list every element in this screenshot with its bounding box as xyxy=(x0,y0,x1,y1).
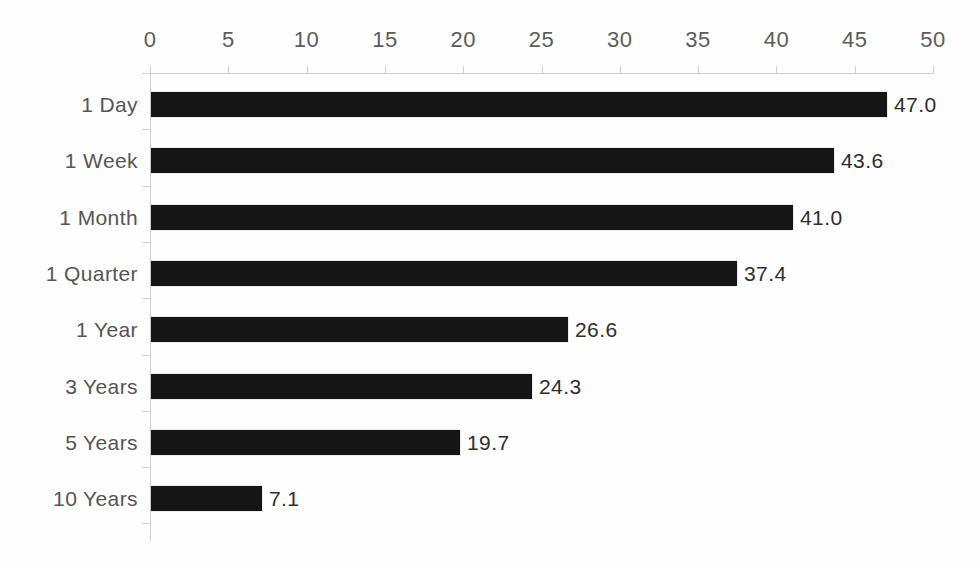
bar[interactable] xyxy=(151,92,887,117)
x-axis-tick-label: 20 xyxy=(450,27,475,53)
x-axis-tick xyxy=(463,66,464,74)
x-axis-tick xyxy=(933,66,934,74)
y-axis-tick xyxy=(142,523,150,524)
bar-row[interactable]: 1 Year26.6 xyxy=(0,317,980,342)
bar[interactable] xyxy=(151,374,532,399)
category-label: 1 Year xyxy=(0,317,138,342)
x-axis-tick-label: 5 xyxy=(222,27,235,53)
category-label: 5 Years xyxy=(0,430,138,455)
bar-value-label: 19.7 xyxy=(467,430,509,455)
bar-value-label: 37.4 xyxy=(744,261,786,286)
x-axis-tick-label: 35 xyxy=(685,27,710,53)
bar[interactable] xyxy=(151,486,262,511)
bar-value-label: 7.1 xyxy=(269,486,299,511)
bar[interactable] xyxy=(151,148,834,173)
x-axis-tick xyxy=(620,66,621,74)
x-axis-tick-label: 25 xyxy=(529,27,554,53)
bar-value-label: 24.3 xyxy=(539,374,581,399)
x-axis-tick-label: 30 xyxy=(607,27,632,53)
bar-row[interactable]: 1 Day47.0 xyxy=(0,92,980,117)
x-axis-tick-label: 15 xyxy=(372,27,397,53)
bar-value-label: 43.6 xyxy=(841,148,883,173)
bar-row[interactable]: 3 Years24.3 xyxy=(0,374,980,399)
category-label: 1 Quarter xyxy=(0,261,138,286)
x-axis-tick-label: 0 xyxy=(144,27,157,53)
y-axis-tick xyxy=(142,242,150,243)
x-axis-tick xyxy=(698,66,699,74)
y-axis-tick xyxy=(142,355,150,356)
x-axis-tick-label: 45 xyxy=(842,27,867,53)
y-axis-line xyxy=(150,73,151,542)
bar[interactable] xyxy=(151,261,737,286)
y-axis-tick xyxy=(142,186,150,187)
x-axis-tick-label: 50 xyxy=(920,27,945,53)
x-axis-tick xyxy=(228,66,229,74)
category-label: 1 Month xyxy=(0,205,138,230)
category-label: 3 Years xyxy=(0,374,138,399)
x-axis-tick-label: 40 xyxy=(764,27,789,53)
bar-row[interactable]: 10 Years7.1 xyxy=(0,486,980,511)
y-axis-tick xyxy=(142,298,150,299)
y-axis-tick xyxy=(142,73,150,74)
x-axis-tick-label: 10 xyxy=(294,27,319,53)
bar-row[interactable]: 5 Years19.7 xyxy=(0,430,980,455)
bar-value-label: 26.6 xyxy=(575,317,617,342)
x-axis-tick xyxy=(385,66,386,74)
bar-row[interactable]: 1 Week43.6 xyxy=(0,148,980,173)
x-axis-tick xyxy=(776,66,777,74)
x-axis-tick xyxy=(855,66,856,74)
bar-value-label: 47.0 xyxy=(894,92,936,117)
bar-row[interactable]: 1 Month41.0 xyxy=(0,205,980,230)
y-axis-tick xyxy=(142,411,150,412)
category-label: 1 Week xyxy=(0,148,138,173)
bar[interactable] xyxy=(151,430,460,455)
bar-chart: 05101520253035404550 1 Day47.01 Week43.6… xyxy=(0,0,980,564)
bar-row[interactable]: 1 Quarter37.4 xyxy=(0,261,980,286)
category-label: 1 Day xyxy=(0,92,138,117)
y-axis-tick xyxy=(142,129,150,130)
bar[interactable] xyxy=(151,205,793,230)
x-axis-tick xyxy=(307,66,308,74)
category-label: 10 Years xyxy=(0,486,138,511)
bar-value-label: 41.0 xyxy=(800,205,842,230)
x-axis-tick xyxy=(542,66,543,74)
bar[interactable] xyxy=(151,317,568,342)
y-axis-tick xyxy=(142,467,150,468)
